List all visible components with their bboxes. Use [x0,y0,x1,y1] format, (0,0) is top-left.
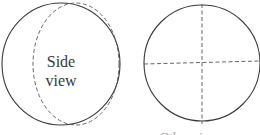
front-view-sphere [144,4,260,124]
side-view-label-line2: view [36,71,86,90]
front-view-caption: Other view [160,129,218,135]
side-view-label-line1: Side [36,52,86,71]
side-view-label: Side view [36,52,86,90]
